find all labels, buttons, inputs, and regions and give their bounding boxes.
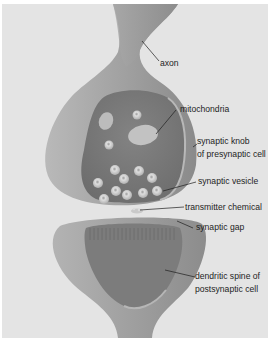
- label-synaptic-knob-line1: synaptic knob: [197, 136, 250, 146]
- postsynaptic-spine: [53, 217, 206, 338]
- label-transmitter-chemical: transmitter chemical: [185, 202, 262, 212]
- label-dendritic-spine-line2: postsynaptic cell: [195, 284, 258, 294]
- transmitter-chemical: [131, 208, 143, 214]
- label-dendritic-spine-line1: dendritic spine of: [195, 271, 261, 281]
- label-synaptic-knob-line2: of presynaptic cell: [197, 149, 266, 159]
- synapse-diagram: axon mitochondria synaptic knob of presy…: [0, 0, 280, 343]
- label-synaptic-vesicle: synaptic vesicle: [198, 176, 258, 186]
- label-mitochondria: mitochondria: [180, 104, 229, 114]
- label-synaptic-gap: synaptic gap: [196, 222, 244, 232]
- label-axon: axon: [160, 58, 179, 68]
